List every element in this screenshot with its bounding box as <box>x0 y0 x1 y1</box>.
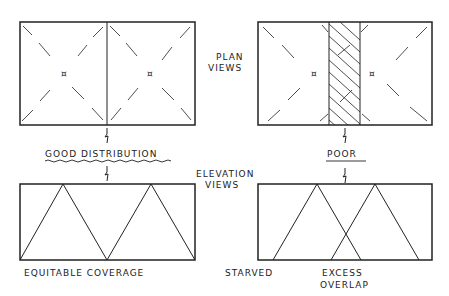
good-plan-view: ¤ ¤ <box>20 22 195 125</box>
luminaire-icon: ¤ <box>369 69 376 79</box>
break-marker-icon <box>105 166 108 181</box>
equitable-coverage-label: EQUITABLE COVERAGE <box>24 268 144 278</box>
luminaire-icon: ¤ <box>147 69 154 79</box>
break-marker-icon <box>343 168 346 183</box>
luminaire-icon: ¤ <box>61 69 68 79</box>
break-marker-icon <box>105 128 108 143</box>
break-marker-icon <box>343 128 346 143</box>
plan-views-label-2: VIEWS <box>208 63 242 73</box>
good-distribution-label: GOOD DISTRIBUTION <box>45 149 157 159</box>
plan-views-label-1: PLAN <box>216 52 244 62</box>
excess-label: EXCESS <box>322 268 363 278</box>
starved-label: STARVED <box>225 268 273 278</box>
poor-elevation-view <box>258 184 432 260</box>
elevation-views-label-1: ELEVATION <box>196 169 254 179</box>
lighting-distribution-diagram: ¤ ¤ <box>0 0 449 296</box>
wavy-underline <box>45 160 171 162</box>
poor-plan-view: ¤ ¤ <box>258 12 432 148</box>
good-elevation-view <box>20 184 195 260</box>
elevation-views-label-2: VIEWS <box>205 180 239 190</box>
luminaire-icon: ¤ <box>311 69 318 79</box>
poor-label: POOR <box>327 149 357 159</box>
overlap-label: OVERLAP <box>320 280 369 290</box>
